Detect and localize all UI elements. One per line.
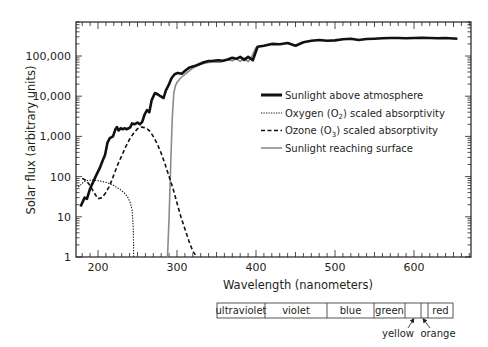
y-tick-label: 100 <box>50 171 71 184</box>
spectrum-band-violet: violet <box>282 305 310 316</box>
legend-label: Oxygen (O2) scaled absorptivity <box>285 108 445 122</box>
y-axis-title: Solar flux (arbitrary units) <box>24 66 38 215</box>
x-tick-label: 500 <box>325 261 346 274</box>
axis-tick-labels: 1101001,00010,000100,000200300400500600 <box>26 50 425 274</box>
spectrum-band-red: red <box>432 305 448 316</box>
y-tick-label: 10,000 <box>33 90 72 103</box>
legend-item-sunlight-surface: Sunlight reaching surface <box>261 143 413 154</box>
visible-spectrum-bar: ultravioletvioletbluegreenredyelloworang… <box>216 303 456 339</box>
x-tick-label: 300 <box>167 261 188 274</box>
solar-flux-chart: 1101001,00010,000100,000200300400500600 … <box>0 0 488 347</box>
legend-label: Sunlight reaching surface <box>285 143 413 154</box>
y-tick-label: 10 <box>57 211 71 224</box>
series-dotted <box>78 180 133 257</box>
legend: Sunlight above atmosphere Oxygen (O2) sc… <box>261 90 445 154</box>
x-axis-title: Wavelength (nanometers) <box>223 278 373 292</box>
series-dashed <box>82 127 197 257</box>
legend-label: Ozone (O3) scaled absorptivity <box>285 125 438 139</box>
callout-orange: orange <box>420 328 455 339</box>
spectrum-band-blue: blue <box>340 305 362 316</box>
legend-item-sunlight-above: Sunlight above atmosphere <box>261 90 423 101</box>
x-tick-label: 200 <box>88 261 109 274</box>
y-tick-label: 1,000 <box>40 130 72 143</box>
y-tick-label: 100,000 <box>26 50 72 63</box>
orange-arrow-icon <box>424 320 430 328</box>
callout-yellow: yellow <box>382 328 414 339</box>
legend-label: Sunlight above atmosphere <box>285 90 423 101</box>
spectrum-band-green: green <box>375 305 404 316</box>
y-tick-label: 1 <box>64 251 71 264</box>
plot-frame <box>76 22 471 257</box>
yellow-arrow-icon <box>408 320 413 328</box>
legend-item-oxygen: Oxygen (O2) scaled absorptivity <box>261 108 445 122</box>
x-tick-label: 400 <box>246 261 267 274</box>
spectrum-band-ultraviolet: ultraviolet <box>216 305 267 316</box>
axis-ticks <box>76 22 471 257</box>
series-thick-solid <box>81 38 458 207</box>
x-tick-label: 600 <box>404 261 425 274</box>
series-solid-gray <box>168 47 257 257</box>
legend-item-ozone: Ozone (O3) scaled absorptivity <box>261 125 438 139</box>
